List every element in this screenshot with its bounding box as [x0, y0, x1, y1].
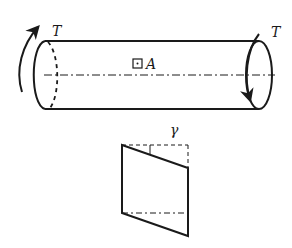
torque-left-label: T: [52, 23, 63, 39]
torsion-diagram: T T A γ: [0, 0, 292, 248]
shear-strain-label: γ: [170, 122, 179, 138]
shaft-left-end-arc: [34, 41, 45, 109]
torque-right-label: T: [271, 24, 282, 40]
torque-right-arrow-icon: [247, 34, 259, 100]
element-a-dot: [137, 63, 139, 65]
deformed-parallelogram: [122, 145, 188, 236]
shear-element: γ: [122, 122, 188, 236]
point-a-label: A: [144, 56, 156, 72]
